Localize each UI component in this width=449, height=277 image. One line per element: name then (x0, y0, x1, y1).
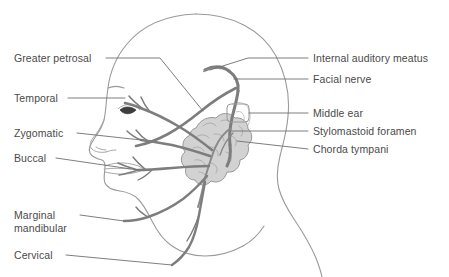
mouth-outline (104, 163, 145, 174)
label-temporal: Temporal (14, 92, 58, 105)
leader-marginal-mandibular (80, 215, 124, 221)
label-buccal: Buccal (14, 152, 46, 165)
label-greater-petrosal: Greater petrosal (14, 52, 91, 65)
leader-cervical (66, 255, 172, 265)
label-marginal-mandibular-line1: Marginal (14, 209, 55, 222)
leader-greater-petrosal (106, 58, 203, 111)
label-cervical: Cervical (14, 249, 53, 262)
leader-lines-left (56, 58, 203, 265)
label-facial-nerve: Facial nerve (313, 73, 371, 86)
label-stylomastoid-foramen: Stylomastoid foramen (313, 125, 417, 138)
label-middle-ear: Middle ear (313, 107, 363, 120)
leader-buccal (56, 158, 138, 170)
label-internal-auditory-meatus: Internal auditory meatus (313, 52, 428, 65)
label-chorda-tympani: Chorda tympani (313, 143, 389, 156)
facial-nerve-diagram: Greater petrosal Temporal Zygomatic Bucc… (0, 0, 449, 277)
anatomy-illustration (0, 0, 449, 277)
label-marginal-mandibular-line2: mandibular (14, 222, 67, 235)
label-zygomatic: Zygomatic (14, 127, 63, 140)
